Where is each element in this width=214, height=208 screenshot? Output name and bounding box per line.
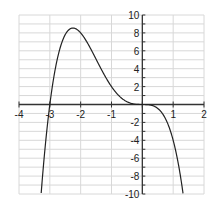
y-tick-label: -6 (130, 153, 139, 164)
function-plot: -4-3-2-112108642-2-4-6-8-10 (0, 0, 214, 208)
y-tick-label: 6 (134, 46, 140, 57)
y-tick-label: 8 (134, 28, 140, 39)
x-tick-label: -3 (45, 109, 54, 120)
x-tick-label: -2 (76, 109, 85, 120)
y-tick-label: 10 (128, 10, 140, 21)
x-tick-label: 1 (170, 109, 176, 120)
x-tick-label: -1 (107, 109, 116, 120)
y-tick-label: -10 (125, 189, 140, 200)
x-tick-label: 2 (201, 109, 207, 120)
x-tick-label: -4 (15, 109, 24, 120)
y-tick-label: 4 (134, 64, 140, 75)
y-tick-label: -2 (130, 117, 139, 128)
y-tick-label: 2 (134, 82, 140, 93)
y-tick-label: -8 (130, 171, 139, 182)
y-tick-label: -4 (130, 135, 139, 146)
